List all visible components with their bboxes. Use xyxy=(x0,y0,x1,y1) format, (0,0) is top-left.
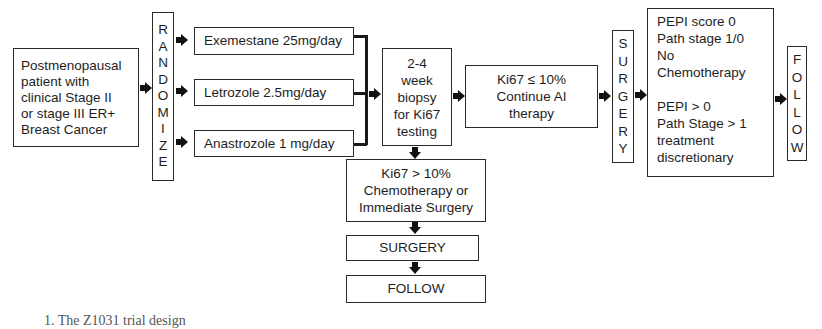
randomize-box: RANDOMIZE xyxy=(152,12,174,181)
patient-box: Postmenopausal patient with clinical Sta… xyxy=(13,48,139,147)
vertical-letter: G xyxy=(618,88,629,106)
follow-box: FOLLOW xyxy=(346,275,486,303)
vertical-letter: L xyxy=(793,86,801,104)
arrow-right-icon xyxy=(635,89,647,101)
arrow-down-icon xyxy=(409,222,421,234)
figure-caption: 1. The Z1031 trial design xyxy=(44,313,186,329)
biopsy-box: 2-4 week biopsy for Ki67 testing xyxy=(382,48,452,146)
arrow-right-icon xyxy=(453,90,465,102)
continue-ai-box: Ki67 ≤ 10% Continue AI therapy xyxy=(465,65,598,128)
high-ki67-box: Ki67 > 10% Chemotherapy or Immediate Sur… xyxy=(346,159,486,222)
surgery-box: SURGERY xyxy=(346,235,479,261)
vertical-letter: F xyxy=(793,51,801,69)
vertical-letter: N xyxy=(158,55,168,72)
vertical-letter: W xyxy=(791,139,804,157)
vertical-letter: S xyxy=(618,35,627,53)
vertical-letter: E xyxy=(158,154,167,171)
vertical-letter: R xyxy=(618,70,628,88)
connector-line xyxy=(365,35,368,145)
vertical-letter: A xyxy=(158,39,167,56)
vertical-letter: Z xyxy=(159,138,167,155)
arrow-right-icon xyxy=(176,34,188,46)
surgery-vertical-box: SURGERY xyxy=(612,30,634,163)
arm-exemestane: Exemestane 25mg/day xyxy=(194,27,354,55)
pepi-outcome-box: PEPI score 0 Path stage 1/0 No Chemother… xyxy=(647,8,774,177)
vertical-letter: I xyxy=(161,121,165,138)
vertical-letter: U xyxy=(618,53,628,71)
vertical-letter: O xyxy=(792,69,803,87)
vertical-letter: Y xyxy=(618,140,627,158)
arrow-right-icon xyxy=(140,82,152,94)
vertical-letter: M xyxy=(157,105,168,122)
vertical-letter: L xyxy=(793,104,801,122)
arm-anastrozole: Anastrozole 1 mg/day xyxy=(194,130,354,157)
follow-vertical-box: FOLLOW xyxy=(787,46,807,161)
arrow-right-icon xyxy=(176,136,188,148)
arrow-right-icon xyxy=(176,85,188,97)
arrow-down-icon xyxy=(409,147,421,159)
vertical-letter: O xyxy=(792,121,803,139)
arrow-right-icon xyxy=(599,90,611,102)
vertical-letter: E xyxy=(618,105,627,123)
vertical-letter: D xyxy=(158,72,168,89)
vertical-letter: R xyxy=(158,22,168,39)
arrow-down-icon xyxy=(409,262,421,274)
arrow-right-icon xyxy=(775,93,787,105)
arrow-right-icon xyxy=(369,88,381,100)
vertical-letter: R xyxy=(618,123,628,141)
vertical-letter: O xyxy=(158,88,169,105)
arm-letrozole: Letrozole 2.5mg/day xyxy=(194,79,354,106)
